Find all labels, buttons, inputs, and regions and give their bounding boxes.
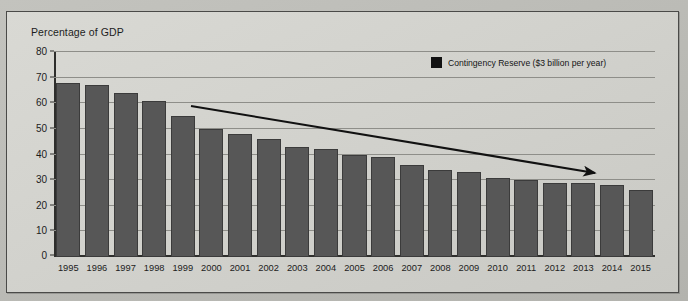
x-tick-label-2005: 2005 bbox=[344, 263, 365, 273]
bar-slot: 2009 bbox=[455, 52, 484, 257]
bar-slot: 2005 bbox=[340, 52, 369, 257]
x-tick-label-1997: 1997 bbox=[115, 263, 136, 273]
bar[interactable] bbox=[514, 180, 538, 257]
bar[interactable] bbox=[486, 178, 510, 257]
x-tick-label-2007: 2007 bbox=[401, 263, 422, 273]
y-tick-label-60: 60 bbox=[36, 97, 47, 108]
x-tick-label-2001: 2001 bbox=[230, 263, 251, 273]
y-axis-caption: Percentage of GDP bbox=[31, 26, 124, 38]
x-tick-label-2002: 2002 bbox=[258, 263, 279, 273]
bar-slot: 1998 bbox=[140, 52, 169, 257]
bar[interactable] bbox=[285, 147, 309, 257]
y-tick-label-30: 30 bbox=[36, 174, 47, 185]
x-tick-label-2012: 2012 bbox=[544, 263, 565, 273]
bar-slot: 2014 bbox=[598, 52, 627, 257]
bar[interactable] bbox=[257, 139, 281, 257]
x-tick-label-2010: 2010 bbox=[487, 263, 508, 273]
bar[interactable] bbox=[228, 134, 252, 257]
bar-slot: 2006 bbox=[369, 52, 398, 257]
bar[interactable] bbox=[600, 185, 624, 257]
bar[interactable] bbox=[428, 170, 452, 257]
bar[interactable] bbox=[142, 101, 166, 257]
y-tick-label-80: 80 bbox=[36, 46, 47, 57]
bar-slot: 1995 bbox=[54, 52, 83, 257]
bar[interactable] bbox=[543, 183, 567, 257]
bar-slot: 2003 bbox=[283, 52, 312, 257]
bar[interactable] bbox=[342, 155, 366, 258]
bar-slot: 1999 bbox=[168, 52, 197, 257]
y-tick-label-0: 0 bbox=[41, 250, 47, 261]
bar-slot: 2004 bbox=[312, 52, 341, 257]
bar-slot: 2011 bbox=[512, 52, 541, 257]
bar[interactable] bbox=[114, 93, 138, 257]
x-tick-label-2000: 2000 bbox=[201, 263, 222, 273]
bar-slot: 2007 bbox=[397, 52, 426, 257]
bar-slot: 2015 bbox=[626, 52, 655, 257]
bar[interactable] bbox=[85, 85, 109, 257]
bar[interactable] bbox=[571, 183, 595, 257]
y-tick-label-40: 40 bbox=[36, 148, 47, 159]
x-tick-label-2006: 2006 bbox=[373, 263, 394, 273]
x-tick-label-2014: 2014 bbox=[602, 263, 623, 273]
x-tick-label-2003: 2003 bbox=[287, 263, 308, 273]
x-tick-label-2013: 2013 bbox=[573, 263, 594, 273]
x-tick-label-1998: 1998 bbox=[144, 263, 165, 273]
bar[interactable] bbox=[629, 190, 653, 257]
bar[interactable] bbox=[199, 129, 223, 257]
bar[interactable] bbox=[400, 165, 424, 257]
bar-slot: 1996 bbox=[83, 52, 112, 257]
chart-figure-frame: Percentage of GDP Contingency Reserve ($… bbox=[6, 11, 679, 293]
bar-slot: 2012 bbox=[541, 52, 570, 257]
x-tick-label-1996: 1996 bbox=[87, 263, 108, 273]
bar[interactable] bbox=[171, 116, 195, 257]
y-tick-label-20: 20 bbox=[36, 199, 47, 210]
y-tick-label-10: 10 bbox=[36, 225, 47, 236]
bar-slot: 2013 bbox=[569, 52, 598, 257]
x-tick-label-1995: 1995 bbox=[58, 263, 79, 273]
bar[interactable] bbox=[371, 157, 395, 257]
x-tick-label-2009: 2009 bbox=[459, 263, 480, 273]
bar-slot: 2001 bbox=[226, 52, 255, 257]
plot-area: 01020304050607080 1995199619971998199920… bbox=[54, 52, 655, 257]
bar-slot: 2000 bbox=[197, 52, 226, 257]
bar[interactable] bbox=[457, 172, 481, 257]
x-tick-label-2004: 2004 bbox=[316, 263, 337, 273]
bar-slot: 2002 bbox=[254, 52, 283, 257]
x-tick-label-1999: 1999 bbox=[172, 263, 193, 273]
bar-slot: 2008 bbox=[426, 52, 455, 257]
bar-slot: 1997 bbox=[111, 52, 140, 257]
x-tick-label-2008: 2008 bbox=[430, 263, 451, 273]
x-tick-label-2011: 2011 bbox=[516, 263, 536, 273]
bar-slot: 2010 bbox=[483, 52, 512, 257]
x-tick-label-2015: 2015 bbox=[630, 263, 651, 273]
y-tick-label-50: 50 bbox=[36, 122, 47, 133]
bar[interactable] bbox=[314, 149, 338, 257]
bar[interactable] bbox=[56, 83, 80, 257]
bar-series: 1995199619971998199920002001200220032004… bbox=[54, 52, 655, 257]
y-tick-label-70: 70 bbox=[36, 71, 47, 82]
scanned-page-background: Percentage of GDP Contingency Reserve ($… bbox=[0, 0, 688, 301]
